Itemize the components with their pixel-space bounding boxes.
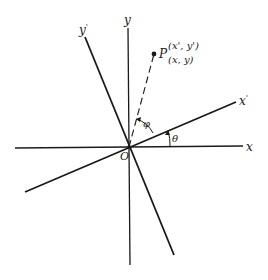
point-p-label: P xyxy=(158,47,168,61)
theta-angle-label: θ xyxy=(172,133,178,144)
radius-dashed-line xyxy=(129,54,154,147)
y-axis-label: y xyxy=(123,13,131,27)
rotated-coords-label: (x', y') xyxy=(168,40,199,51)
origin-dot xyxy=(127,145,131,149)
original-coords-label: (x, y) xyxy=(168,54,194,65)
rotation-diagram: y y' x x' O P (x', y') (x, y) φ θ xyxy=(0,0,268,280)
point-p-dot xyxy=(152,52,157,57)
y-prime-axis-label: y' xyxy=(78,22,88,37)
phi-arrowhead xyxy=(136,117,141,122)
phi-angle-label: φ xyxy=(143,118,150,129)
x-axis-label: x xyxy=(246,140,253,154)
origin-label: O xyxy=(120,150,129,163)
x-prime-axis-label: x' xyxy=(239,93,248,108)
